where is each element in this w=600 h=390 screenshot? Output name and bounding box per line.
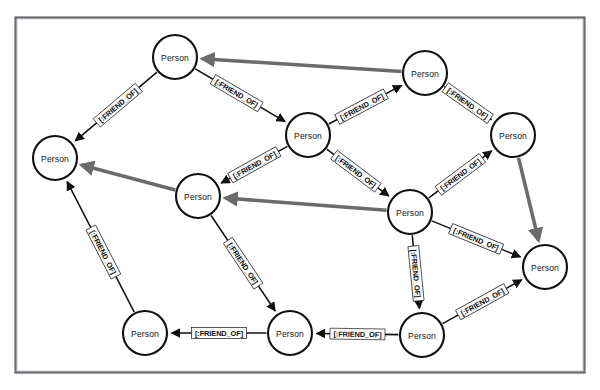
graph-node[interactable]: Person [153,35,197,79]
graph-node[interactable]: Person [33,136,77,180]
node-label: Person [408,331,436,341]
node-label: Person [131,329,159,339]
edge-label-text: [:FRIEND_OF] [195,329,244,338]
diagram-canvas: [:FRIEND_OF][:FRIEND_OF][:FRIEND_OF][:FR… [0,0,600,390]
graph-node[interactable]: Person [123,311,167,355]
graph-node[interactable]: Person [268,311,312,355]
edge-label[interactable]: [:FRIEND_OF] [330,328,385,340]
graph-node[interactable]: Person [286,113,330,157]
node-label: Person [161,53,189,63]
node-label: Person [41,154,69,164]
node-label: Person [184,192,212,202]
node-label: Person [531,263,559,273]
graph-node[interactable]: Person [403,51,447,95]
graph-svg: [:FRIEND_OF][:FRIEND_OF][:FRIEND_OF][:FR… [0,0,600,390]
node-label: Person [396,208,424,218]
node-label: Person [276,329,304,339]
node-label: Person [294,131,322,141]
edge-label-text: [:FRIEND_OF] [333,330,382,340]
graph-node[interactable]: Person [176,174,220,218]
graph-node[interactable]: Person [388,190,432,234]
node-label: Person [499,131,527,141]
graph-node[interactable]: Person [523,245,567,289]
edge-label[interactable]: [:FRIEND_OF] [192,328,247,339]
graph-node[interactable]: Person [491,113,535,157]
graph-node[interactable]: Person [400,313,444,357]
node-label: Person [411,69,439,79]
